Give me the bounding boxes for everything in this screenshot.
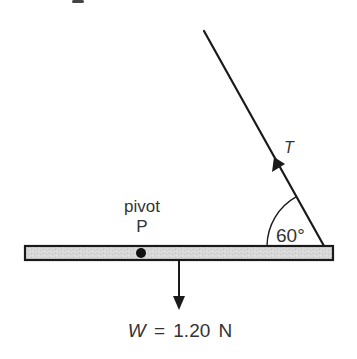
cropped-text-fragment xyxy=(72,0,84,3)
weight-symbol: W xyxy=(128,320,148,341)
angle-label: 60° xyxy=(276,225,305,246)
tension-label: T xyxy=(284,139,295,156)
weight-value: 1.20 xyxy=(173,320,210,341)
weight-unit: N xyxy=(219,320,233,341)
pivot-label: pivot xyxy=(124,197,160,216)
weight-equals: = xyxy=(154,320,165,341)
tension-string xyxy=(204,31,324,246)
weight-label: W = 1.20 N xyxy=(128,320,233,341)
weight-arrow-icon xyxy=(173,296,185,310)
pivot-letter: P xyxy=(136,217,147,236)
pivot-point xyxy=(136,248,146,258)
tension-arrow-icon xyxy=(272,157,285,172)
beam xyxy=(25,246,333,260)
lever-force-diagram: T 60° pivot P W = 1.20 N xyxy=(0,0,357,359)
